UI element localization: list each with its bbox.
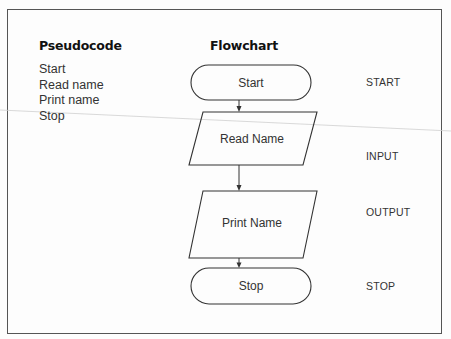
pseudocode-line: Read name [39,78,104,94]
type-label-stop: STOP [366,280,395,292]
arrow-start-to-read [237,100,242,112]
node-print: Print Name [189,191,317,258]
type-label-input: INPUT [366,150,399,162]
node-stop: Stop [191,268,311,304]
pseudocode-line: Stop [39,109,104,125]
node-print-text: Print Name [222,216,282,230]
pseudocode-line: Start [39,62,104,78]
type-label-start: START [366,76,400,88]
node-start-text: Start [238,76,264,90]
type-label-output: OUTPUT [366,206,410,218]
pseudocode-list: Start Read name Print name Stop [39,62,104,124]
pseudocode-heading: Pseudocode [39,38,122,53]
node-stop-text: Stop [239,279,264,293]
arrow-print-to-stop [237,258,242,268]
flowchart-heading: Flowchart [210,38,278,53]
node-start: Start [191,65,311,100]
arrow-read-to-print [237,165,242,191]
pseudocode-line: Print name [39,93,104,109]
node-read-text: Read Name [220,132,284,146]
